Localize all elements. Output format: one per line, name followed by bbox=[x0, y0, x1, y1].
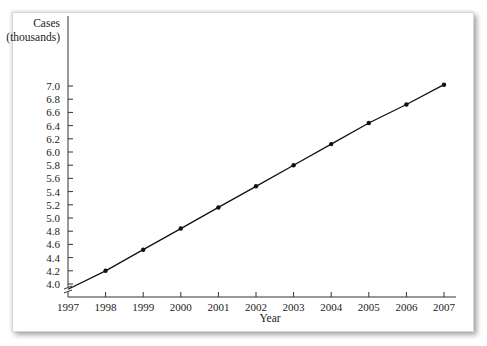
x-tick-label: 2007 bbox=[433, 301, 456, 313]
axis-break-icon bbox=[64, 286, 72, 293]
data-point-marker bbox=[254, 184, 258, 188]
x-tick-label: 2001 bbox=[207, 301, 229, 313]
x-tick-label: 2004 bbox=[320, 301, 343, 313]
y-axis: 4.04.24.44.64.85.05.25.45.65.86.06.26.46… bbox=[46, 16, 73, 297]
data-point-marker bbox=[442, 82, 446, 86]
y-tick-label: 5.6 bbox=[46, 172, 60, 184]
y-tick-label: 4.6 bbox=[46, 238, 60, 250]
x-tick-label: 2000 bbox=[170, 301, 193, 313]
y-tick-label: 6.4 bbox=[46, 120, 60, 132]
x-tick-label: 1998 bbox=[95, 301, 118, 313]
x-axis-title: Year bbox=[259, 312, 280, 324]
y-tick-label: 6.8 bbox=[46, 93, 60, 105]
x-tick-label: 2006 bbox=[395, 301, 418, 313]
x-axis: 1997199819992000200120022003200420052006… bbox=[57, 292, 456, 313]
x-tick-label: 1997 bbox=[57, 301, 80, 313]
y-axis-title: Cases (thousands) bbox=[6, 17, 60, 44]
y-tick-label: 4.0 bbox=[46, 278, 60, 290]
y-tick-label: 4.2 bbox=[46, 265, 60, 277]
y-tick-label: 5.2 bbox=[46, 199, 60, 211]
data-point-marker bbox=[291, 163, 295, 167]
x-tick-label: 1999 bbox=[132, 301, 155, 313]
data-point-marker bbox=[329, 142, 333, 146]
x-tick-label: 2003 bbox=[283, 301, 306, 313]
y-tick-label: 5.8 bbox=[46, 159, 60, 171]
x-tick-label: 2005 bbox=[358, 301, 381, 313]
data-point-marker bbox=[367, 121, 371, 125]
data-point-marker bbox=[179, 226, 183, 230]
y-tick-label: 6.0 bbox=[46, 146, 60, 158]
y-tick-label: 6.2 bbox=[46, 133, 60, 145]
data-point-marker bbox=[103, 269, 107, 273]
y-tick-label: 5.0 bbox=[46, 212, 60, 224]
y-axis-title-line-1: Cases bbox=[33, 17, 60, 29]
plot-area bbox=[68, 82, 446, 289]
y-tick-label: 4.8 bbox=[46, 225, 60, 237]
line-chart: Cases (thousands) 4.04.24.44.64.85.05.25… bbox=[0, 0, 487, 346]
data-point-marker bbox=[216, 205, 220, 209]
y-tick-label: 4.4 bbox=[46, 252, 60, 264]
y-tick-label: 7.0 bbox=[46, 80, 60, 92]
data-point-marker bbox=[141, 247, 145, 251]
y-tick-label: 6.6 bbox=[46, 106, 60, 118]
y-tick-label: 5.4 bbox=[46, 186, 60, 198]
data-point-marker bbox=[404, 102, 408, 106]
y-axis-title-line-2: (thousands) bbox=[6, 31, 60, 44]
